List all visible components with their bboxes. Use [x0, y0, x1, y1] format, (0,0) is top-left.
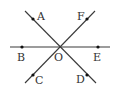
point-E [96, 45, 99, 48]
diagram-canvas: A F B O E C D [0, 0, 115, 91]
point-F [85, 17, 88, 20]
label-O: O [54, 51, 63, 64]
label-C: C [35, 74, 43, 87]
point-B [20, 45, 23, 48]
intersecting-lines-diagram: A F B O E C D [0, 0, 115, 91]
label-F: F [77, 10, 85, 23]
label-E: E [93, 51, 101, 64]
label-A: A [36, 10, 46, 23]
label-D: D [76, 73, 85, 86]
point-D [85, 73, 88, 76]
point-A [31, 17, 34, 20]
label-B: B [17, 51, 25, 64]
